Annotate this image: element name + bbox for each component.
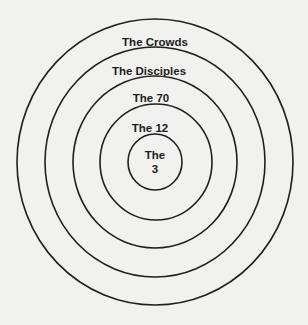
ring-three: [128, 134, 182, 190]
label-disciples: The Disciples: [112, 65, 186, 77]
ring-crowds: [17, 19, 293, 305]
label-crowds: The Crowds: [122, 36, 188, 48]
ring-disciples: [45, 47, 265, 277]
label-seventy: The 70: [133, 92, 169, 104]
concentric-circles-diagram: The Crowds The Disciples The 70 The 12 T…: [0, 0, 308, 325]
label-three-line1: The: [145, 149, 165, 161]
label-twelve: The 12: [132, 122, 168, 134]
label-three-line2: 3: [152, 163, 158, 175]
